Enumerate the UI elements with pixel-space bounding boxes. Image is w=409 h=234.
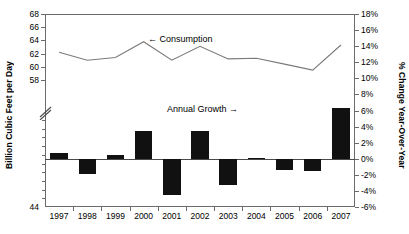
y-axis-right-tick-label: 14%: [361, 41, 378, 51]
x-axis-tick-label: 1998: [78, 211, 97, 221]
y-axis-right-tick: [355, 175, 359, 176]
y-axis-right-tick-label: 2%: [361, 138, 373, 148]
x-axis-tick: [130, 207, 131, 211]
x-axis-tick-label: 2003: [219, 211, 238, 221]
y-axis-right-tick: [355, 78, 359, 79]
y-axis-right-tick: [355, 14, 359, 15]
y-axis-right-tick-label: 6%: [361, 106, 373, 116]
annotation-annual-growth: Annual Growth →: [167, 104, 238, 114]
y-axis-right-tick: [355, 62, 359, 63]
plot-area: 68666462605844 18%16%14%12%10%8%6%4%2%0%…: [45, 14, 355, 207]
y-axis-right-tick-label: 0%: [361, 154, 373, 164]
x-axis-tick-label: 2007: [331, 211, 350, 221]
y-axis-right-tick: [355, 46, 359, 47]
chart-container: Billion Cubic Feet per Day % Change Year…: [0, 0, 409, 234]
x-axis-tick-label: 2002: [191, 211, 210, 221]
annotation-consumption: ← Consumption: [148, 34, 213, 44]
y-axis-left-tick-label: 60: [30, 62, 39, 72]
y-axis-right-tick-label: -2%: [361, 170, 376, 180]
y-axis-right-tick-label: 18%: [361, 9, 378, 19]
x-axis-tick: [270, 207, 271, 211]
x-axis-tick: [299, 207, 300, 211]
y-axis-left-tick-label: 68: [30, 9, 39, 19]
x-axis-tick-label: 1999: [106, 211, 125, 221]
x-axis-tick-label: 1997: [50, 211, 69, 221]
x-axis-tick: [101, 207, 102, 211]
y-axis-left-tick-label: 66: [30, 22, 39, 32]
y-axis-right-tick: [355, 143, 359, 144]
x-axis-tick: [214, 207, 215, 211]
y-axis-left-tick-label: 62: [30, 49, 39, 59]
y-axis-right-tick: [355, 111, 359, 112]
y-axis-right-tick: [355, 159, 359, 160]
x-axis-tick-label: 2004: [247, 211, 266, 221]
y-axis-right-title: % Change Year-Over-Year: [395, 30, 409, 200]
x-axis-tick: [186, 207, 187, 211]
x-axis-tick: [73, 207, 74, 211]
y-axis-left-tick-label: 44: [30, 202, 39, 212]
y-axis-right-tick: [355, 207, 359, 208]
y-axis-right-tick-label: -4%: [361, 186, 376, 196]
x-axis-tick-label: 2000: [134, 211, 153, 221]
x-axis-tick-label: 2006: [303, 211, 322, 221]
y-axis-right-tick-label: 4%: [361, 122, 373, 132]
y-axis-right-tick-label: 16%: [361, 25, 378, 35]
y-axis-left-tick-label: 58: [30, 75, 39, 85]
y-axis-right-tick: [355, 30, 359, 31]
x-axis-tick-label: 2001: [162, 211, 181, 221]
y-axis-left-title: Billion Cubic Feet per Day: [2, 40, 16, 190]
x-axis-tick-label: 2005: [275, 211, 294, 221]
y-axis-right-tick-label: 10%: [361, 73, 378, 83]
y-axis-left-tick-label: 64: [30, 35, 39, 45]
y-axis-right-tick-label: -6%: [361, 202, 376, 212]
x-axis-tick: [327, 207, 328, 211]
y-axis-right-tick: [355, 94, 359, 95]
y-axis-right-tick-label: 8%: [361, 89, 373, 99]
y-axis-right-tick: [355, 191, 359, 192]
y-axis-right-tick-label: 12%: [361, 57, 378, 67]
y-axis-right-tick: [355, 127, 359, 128]
x-axis-tick: [242, 207, 243, 211]
x-axis-tick: [158, 207, 159, 211]
